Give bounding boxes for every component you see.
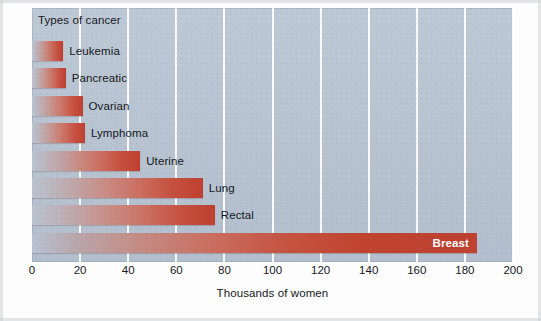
panel-title: Types of cancer (38, 14, 121, 26)
bar-label: Pancreatic (72, 68, 127, 88)
bar (32, 123, 85, 143)
x-tick-label: 20 (74, 264, 87, 276)
bar (32, 96, 83, 116)
bar-chart: Types of cancer LeukemiaPancreaticOvaria… (0, 0, 541, 321)
x-tick-label: 140 (359, 264, 378, 276)
x-tick-label: 80 (218, 264, 231, 276)
bar-row: Rectal (32, 205, 513, 225)
scan-edge-left (0, 0, 3, 321)
bar (32, 151, 140, 171)
bar-row: Leukemia (32, 41, 513, 61)
bar (32, 68, 66, 88)
bar (32, 233, 477, 253)
plot-area: Types of cancer LeukemiaPancreaticOvaria… (32, 8, 513, 262)
x-tick-label: 40 (122, 264, 135, 276)
bar (32, 41, 63, 61)
bar-row: Pancreatic (32, 68, 513, 88)
bar-row: Ovarian (32, 96, 513, 116)
x-axis: 020406080100120140160180200 (32, 262, 513, 284)
bar-label: Breast (433, 233, 469, 253)
x-tick-label: 200 (503, 264, 522, 276)
bar-label: Leukemia (69, 41, 120, 61)
bar-label: Rectal (221, 205, 254, 225)
x-tick-label: 120 (311, 264, 330, 276)
bar-label: Ovarian (89, 96, 130, 116)
bar-row: Breast (32, 233, 513, 253)
scan-edge-top (0, 0, 541, 3)
x-tick-label: 180 (455, 264, 474, 276)
bar (32, 205, 215, 225)
bar-label: Lymphoma (91, 123, 148, 143)
bar-label: Uterine (146, 151, 184, 171)
x-tick-label: 100 (263, 264, 282, 276)
bar-row: Uterine (32, 151, 513, 171)
bar-row: Lymphoma (32, 123, 513, 143)
bar-label: Lung (209, 178, 235, 198)
x-tick-label: 160 (407, 264, 426, 276)
bar-row: Lung (32, 178, 513, 198)
bar (32, 178, 203, 198)
x-axis-title: Thousands of women (32, 287, 513, 299)
x-tick-label: 0 (29, 264, 35, 276)
x-tick-label: 60 (170, 264, 183, 276)
